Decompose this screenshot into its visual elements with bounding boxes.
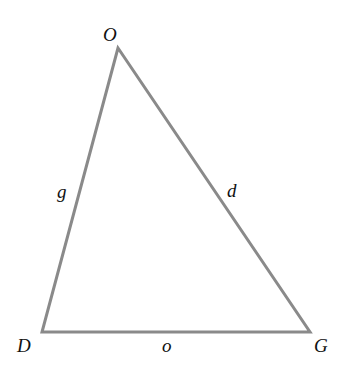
side-label-g: g xyxy=(57,182,67,201)
triangle-diagram: O D G g d o xyxy=(0,0,343,373)
side-label-o: o xyxy=(162,336,172,355)
triangle-shape xyxy=(0,0,343,373)
vertex-label-d: D xyxy=(17,336,31,355)
vertex-label-o: O xyxy=(103,25,117,44)
vertex-label-g: G xyxy=(314,336,328,355)
side-label-d: d xyxy=(227,181,237,200)
